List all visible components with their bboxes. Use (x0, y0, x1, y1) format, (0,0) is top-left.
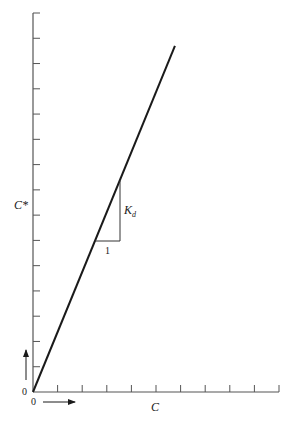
run-label: 1 (105, 245, 110, 256)
x-axis (33, 385, 279, 392)
rise-label: Kd (123, 203, 137, 219)
y-axis (33, 13, 40, 392)
isotherm-diagram: C* C 0 0 1 Kd (0, 0, 291, 424)
isotherm-line (33, 46, 175, 392)
y-axis-ticks (33, 13, 40, 367)
x-axis-label: C (151, 400, 160, 414)
y-axis-label: C* (14, 198, 28, 212)
x-axis-ticks (58, 385, 279, 392)
x-origin-label: 0 (31, 396, 36, 407)
y-origin-label: 0 (22, 386, 27, 397)
